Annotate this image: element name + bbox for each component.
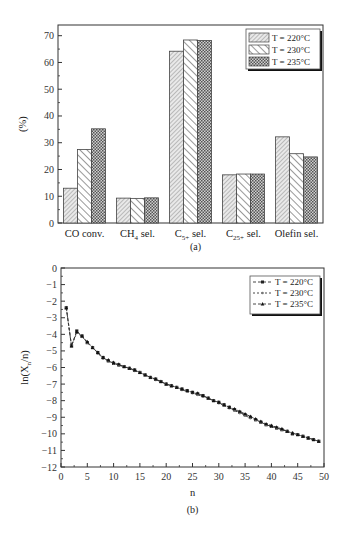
line-chart-panel: 0−1−2−3−4−5−6−7−8−9−10−11−12051015202530…	[19, 263, 329, 517]
legend-label: T = 220°C	[275, 277, 313, 287]
x-category-label: C25+ sel.	[226, 228, 261, 242]
y-tick-label: −3	[46, 312, 57, 323]
y-tick-label: 0	[49, 218, 54, 229]
x-tick-label: 25	[188, 471, 198, 482]
bar	[198, 41, 212, 223]
x-tick-label: 30	[214, 471, 224, 482]
bar	[184, 40, 198, 223]
series-line	[66, 308, 318, 442]
x-category-label: CO conv.	[65, 228, 105, 239]
bar	[170, 51, 184, 223]
y-tick-label: 0	[52, 263, 57, 274]
x-tick-label: 50	[319, 471, 329, 482]
x-category-label: Olefin sel.	[275, 228, 319, 239]
legend-label: T = 235°C	[272, 57, 310, 67]
panel-caption: (a)	[190, 241, 201, 253]
bar	[276, 137, 290, 223]
legend-label: T = 230°C	[272, 45, 310, 55]
y-tick-label: −10	[41, 428, 57, 439]
series-line	[66, 308, 318, 442]
bar	[223, 175, 237, 223]
x-tick-label: 40	[266, 471, 276, 482]
bar-chart-panel: 010203040506070(%)CO conv.CH4 sel.C5+ se…	[17, 25, 323, 253]
legend-marker	[261, 292, 264, 295]
bar	[92, 129, 106, 223]
x-category-label: CH4 sel.	[120, 228, 155, 242]
figure: 010203040506070(%)CO conv.CH4 sel.C5+ se…	[0, 0, 346, 535]
legend-label: T = 220°C	[272, 33, 310, 43]
legend-label: T = 230°C	[275, 288, 313, 298]
y-tick-label: 60	[44, 57, 54, 68]
legend-label: T = 235°C	[275, 299, 313, 309]
y-tick-label: −1	[46, 279, 57, 290]
y-tick-label: −5	[46, 345, 57, 356]
legend-swatch	[249, 57, 269, 66]
y-tick-label: −4	[46, 329, 57, 340]
bar	[131, 198, 145, 223]
y-tick-label: 10	[44, 191, 54, 202]
x-tick-label: 45	[293, 471, 303, 482]
y-tick-label: −12	[41, 462, 57, 473]
bar	[237, 174, 251, 223]
x-tick-label: 5	[85, 471, 90, 482]
bar	[304, 157, 318, 223]
x-tick-label: 0	[59, 471, 64, 482]
y-tick-label: −7	[46, 379, 57, 390]
y-tick-label: 50	[44, 84, 54, 95]
y-tick-label: −9	[46, 412, 57, 423]
x-category-label: C5+ sel.	[175, 228, 206, 242]
x-tick-label: 10	[109, 471, 119, 482]
legend-swatch	[249, 45, 269, 54]
legend-swatch	[249, 33, 269, 42]
y-axis-label: ln(Xn/n)	[19, 350, 33, 385]
y-tick-label: 30	[44, 137, 54, 148]
panel-caption: (b)	[187, 504, 199, 516]
y-tick-label: 70	[44, 30, 54, 41]
y-tick-label: −11	[42, 445, 57, 456]
bar	[64, 188, 78, 223]
y-tick-label: −2	[46, 296, 57, 307]
legend-marker	[261, 281, 264, 284]
x-tick-label: 15	[135, 471, 145, 482]
x-tick-label: 20	[161, 471, 171, 482]
y-tick-label: −8	[46, 395, 57, 406]
bar	[251, 174, 265, 223]
bar	[117, 198, 131, 223]
y-tick-label: −6	[46, 362, 57, 373]
y-axis-label: (%)	[17, 116, 29, 132]
y-tick-label: 40	[44, 110, 54, 121]
bar	[145, 198, 159, 223]
y-tick-label: 20	[44, 164, 54, 175]
bar	[78, 149, 92, 223]
x-axis-label: n	[190, 487, 196, 498]
bar	[290, 154, 304, 223]
x-tick-label: 35	[240, 471, 250, 482]
series-line	[66, 308, 318, 442]
